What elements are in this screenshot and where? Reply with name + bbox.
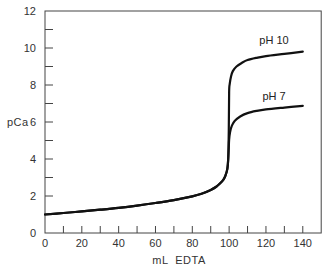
series-line-ph10 [45, 52, 303, 215]
x-axis-ticks: 020406080100120140 [42, 226, 312, 249]
y-axis-label: pCa [7, 116, 29, 128]
y-tick-label: 6 [30, 116, 36, 128]
x-tick-label: 100 [220, 237, 238, 249]
y-tick-label: 4 [30, 153, 36, 165]
y-tick-label: 12 [24, 5, 36, 17]
x-axis-label: mL EDTA [152, 254, 206, 266]
x-tick-label: 140 [294, 237, 312, 249]
y-tick-label: 0 [30, 227, 36, 239]
data-series [45, 52, 303, 215]
y-tick-label: 8 [30, 79, 36, 91]
x-tick-label: 60 [149, 237, 161, 249]
x-tick-label: 80 [186, 237, 198, 249]
y-tick-label: 10 [24, 42, 36, 54]
titration-chart: 020406080100120140 024681012 pH 10 pH 7 … [0, 0, 326, 268]
series-line-ph7 [45, 106, 303, 215]
x-tick-label: 0 [42, 237, 48, 249]
x-tick-label: 20 [76, 237, 88, 249]
y-tick-label: 2 [30, 190, 36, 202]
series-label-ph7: pH 7 [262, 90, 285, 102]
x-tick-label: 120 [257, 237, 275, 249]
series-label-ph10: pH 10 [259, 34, 288, 46]
x-tick-label: 40 [113, 237, 125, 249]
